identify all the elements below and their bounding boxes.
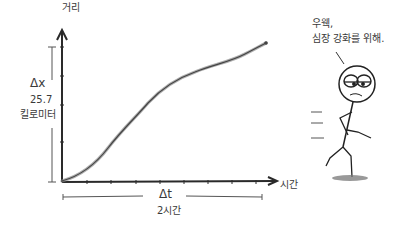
- delta-t-symbol: Δt: [159, 188, 172, 200]
- y-axis: [57, 30, 67, 182]
- speech-bubble-text: 우웩, 심장 강화를 위해.: [312, 16, 385, 46]
- speech-pointer: [336, 52, 344, 64]
- x-axis: [62, 177, 277, 185]
- stick-figure-runner: [326, 66, 375, 177]
- x-axis-label: 시간: [280, 180, 298, 190]
- distance-curve: [62, 43, 266, 181]
- delta-x-unit: 킬로미터: [20, 110, 56, 120]
- motion-lines: [311, 112, 324, 138]
- ground-shadow: [332, 175, 368, 181]
- delta-x-symbol: Δx: [30, 77, 45, 89]
- delta-t-value: 2시간: [157, 206, 181, 216]
- y-axis-label: 거리: [62, 3, 80, 13]
- delta-x-value: 25.7: [30, 95, 52, 105]
